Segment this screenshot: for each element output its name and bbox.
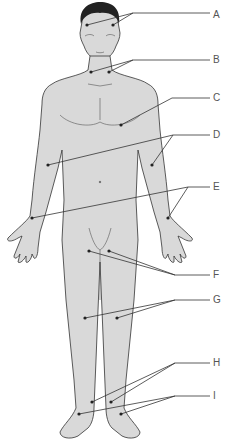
label-i: I xyxy=(213,391,216,401)
anatomy-figure xyxy=(0,0,228,447)
label-d: D xyxy=(213,130,220,140)
label-c: C xyxy=(213,93,220,103)
label-g: G xyxy=(213,295,221,305)
label-e: E xyxy=(213,182,220,192)
label-h: H xyxy=(213,358,220,368)
label-f: F xyxy=(213,270,219,280)
label-a: A xyxy=(213,10,220,20)
label-b: B xyxy=(213,55,220,65)
